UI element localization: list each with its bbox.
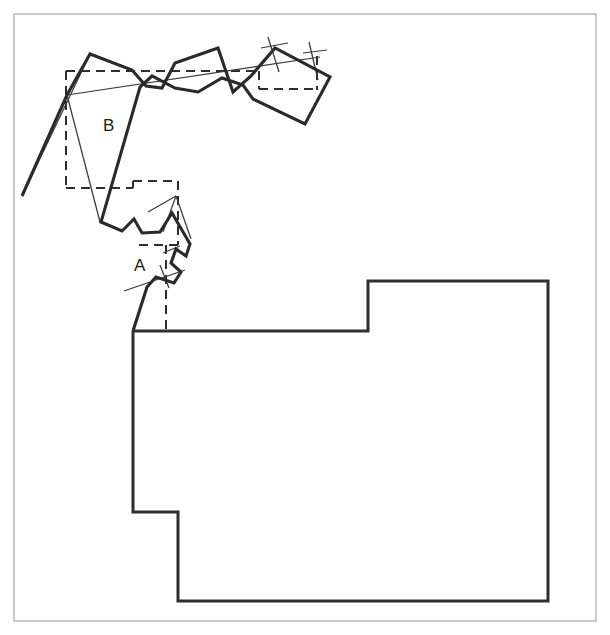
region-label-a: A [134,256,146,275]
floor-plan-polygon [133,281,548,601]
figure-canvas: B A [0,0,610,635]
technical-drawing-svg: B A [0,0,610,635]
thin-line-10 [303,50,327,53]
traced-boundary-polyline [22,48,330,331]
thin-line-3 [148,196,176,212]
dashed-segment-group [66,56,318,331]
thin-line-0 [67,95,100,222]
region-label-b: B [103,116,115,135]
outer-border [14,14,596,621]
